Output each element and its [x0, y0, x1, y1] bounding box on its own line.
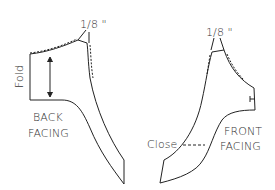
fold-label: Fold — [14, 65, 26, 88]
front-pointer-line-2 — [220, 38, 224, 50]
front-facing-label-line2: FACING — [220, 141, 261, 153]
front-facing-label-line1: FRONT — [224, 126, 262, 138]
back-neckline-adjusted — [30, 39, 77, 53]
arrow-head-top — [48, 57, 53, 62]
pattern-drawing — [0, 0, 275, 190]
back-pointer-line — [78, 30, 86, 40]
front-seam-allowance-label: 1/8 " — [206, 27, 233, 39]
arrow-head-bottom — [48, 92, 53, 97]
back-facing-label-line1: BACK — [33, 112, 63, 124]
back-seam-allowance-label: 1/8 " — [80, 19, 107, 31]
front-neckline-adjusted — [227, 54, 244, 80]
close-label: Close — [147, 139, 177, 151]
front-pointer-line — [211, 38, 214, 50]
back-shoulder-adjusted — [90, 45, 93, 78]
back-facing-label-line2: FACING — [28, 128, 69, 140]
